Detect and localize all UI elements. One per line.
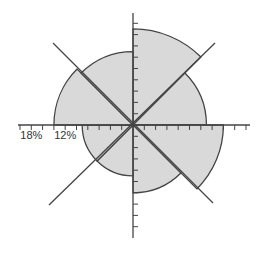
axis-label: 18%	[20, 129, 42, 141]
polar-area-chart: 18%12%	[0, 0, 266, 253]
axis-label: 12%	[54, 129, 76, 141]
sectors	[54, 29, 224, 193]
axis-labels: 18%12%	[20, 129, 76, 141]
